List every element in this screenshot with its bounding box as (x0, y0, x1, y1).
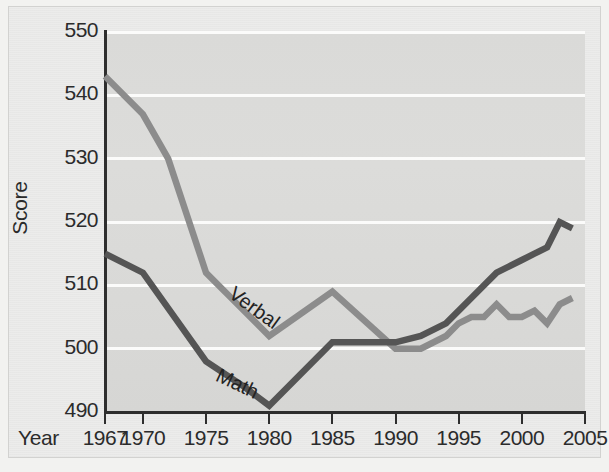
chart-page: 550540530520510500490 196719701975198019… (0, 0, 609, 472)
series-layer (0, 0, 609, 472)
series-line-verbal (105, 76, 572, 348)
